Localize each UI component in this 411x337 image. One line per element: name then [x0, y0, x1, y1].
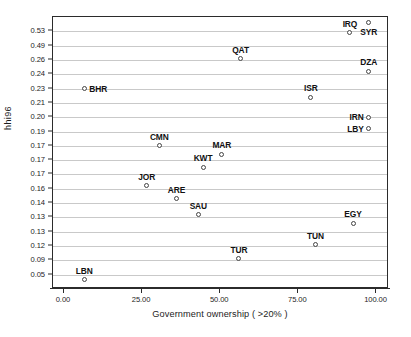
data-point-label-tun: TUN [307, 231, 324, 241]
data-point-label-dza: DZA [360, 57, 377, 67]
y-tick-label: 0.16 [31, 183, 45, 192]
data-point-label-cmn: CMN [150, 132, 169, 142]
data-point-label-are: ARE [168, 185, 185, 195]
gridline [53, 132, 387, 133]
y-tick-label: 0.49 [31, 40, 45, 49]
data-point-label-irn: IRN [350, 112, 364, 122]
data-point-dza[interactable] [366, 69, 371, 74]
y-tick-label: 0.53 [31, 26, 45, 35]
x-tick-mark [375, 288, 376, 293]
gridline [53, 46, 387, 47]
y-axis-title: hhi96 [3, 106, 13, 130]
x-tick-label: 100.00 [364, 295, 387, 304]
data-point-label-jor: JOR [138, 172, 155, 182]
y-tick-label: 0.20 [31, 112, 45, 121]
gridline [53, 60, 387, 61]
x-tick-label: 25.00 [132, 295, 151, 304]
gridline [53, 74, 387, 75]
x-tick-mark [297, 288, 298, 293]
data-point-qat[interactable] [238, 56, 243, 61]
x-tick-mark [219, 288, 220, 293]
y-tick-label: 0.14 [31, 198, 45, 207]
y-tick-label: 0.17 [31, 155, 45, 164]
data-point-label-qat: QAT [232, 45, 249, 55]
x-tick-label: 0.00 [56, 295, 70, 304]
data-point-label-egy: EGY [344, 209, 361, 219]
data-point-lby[interactable] [366, 126, 371, 131]
data-point-lbn[interactable] [82, 277, 87, 282]
x-axis-title: Government ownership ( >20% ) [52, 309, 388, 319]
x-tick-label: 75.00 [288, 295, 307, 304]
y-tick-label: 0.24 [31, 69, 45, 78]
data-point-tur[interactable] [236, 256, 241, 261]
y-axis: 0.530.490.260.240.230.210.200.190.170.17… [0, 16, 52, 288]
y-tick-label: 0.13 [31, 226, 45, 235]
data-point-egy[interactable] [351, 221, 356, 226]
gridline [53, 275, 387, 276]
x-tick-label: 50.00 [210, 295, 229, 304]
gridline [53, 103, 387, 104]
data-point-label-bhr: BHR [89, 84, 107, 94]
data-point-bhr[interactable] [82, 86, 87, 91]
data-point-label-syr: SYR [360, 27, 377, 37]
y-tick-label: 0.19 [31, 126, 45, 135]
data-point-sau[interactable] [196, 212, 201, 217]
data-point-kwt[interactable] [201, 165, 206, 170]
data-point-label-mar: MAR [212, 140, 231, 150]
gridline [53, 217, 387, 218]
data-point-label-irq: IRQ [343, 19, 358, 29]
data-point-label-isr: ISR [304, 83, 318, 93]
data-point-irq[interactable] [347, 30, 352, 35]
data-point-label-kwt: KWT [194, 153, 213, 163]
data-points-layer: SYRIRQQATDZABHRISRIRNLBYCMNMARKWTJORARES… [53, 17, 387, 287]
y-tick-label: 0.09 [31, 255, 45, 264]
data-point-cmn[interactable] [157, 143, 162, 148]
scatter-plot-figure: 0.530.490.260.240.230.210.200.190.170.17… [0, 0, 411, 337]
data-point-are[interactable] [174, 196, 179, 201]
data-point-tun[interactable] [313, 242, 318, 247]
y-tick-label: 0.05 [31, 269, 45, 278]
y-tick-label: 0.13 [31, 212, 45, 221]
x-tick-mark [63, 288, 64, 293]
y-tick-label: 0.26 [31, 54, 45, 63]
data-point-syr[interactable] [366, 20, 371, 25]
plot-area: SYRIRQQATDZABHRISRIRNLBYCMNMARKWTJORARES… [52, 16, 388, 288]
gridline [53, 89, 387, 90]
gridline [53, 246, 387, 247]
data-point-jor[interactable] [144, 183, 149, 188]
gridline [53, 31, 387, 32]
data-point-irn[interactable] [366, 115, 371, 120]
gridlines [53, 17, 387, 287]
gridline [53, 160, 387, 161]
data-point-label-lby: LBY [347, 124, 363, 134]
data-point-isr[interactable] [308, 95, 313, 100]
data-point-label-sau: SAU [190, 201, 207, 211]
gridline [53, 117, 387, 118]
gridline [53, 189, 387, 190]
y-tick-label: 0.23 [31, 83, 45, 92]
gridline [53, 260, 387, 261]
y-tick-label: 0.21 [31, 97, 45, 106]
y-tick-label: 0.17 [31, 140, 45, 149]
y-tick-label: 0.12 [31, 241, 45, 250]
x-tick-mark [141, 288, 142, 293]
data-point-label-tur: TUR [231, 245, 248, 255]
gridline [53, 203, 387, 204]
gridline [53, 232, 387, 233]
gridline [53, 174, 387, 175]
y-tick-label: 0.17 [31, 169, 45, 178]
gridline [53, 146, 387, 147]
data-point-label-lbn: LBN [76, 266, 93, 276]
data-point-mar[interactable] [219, 152, 224, 157]
